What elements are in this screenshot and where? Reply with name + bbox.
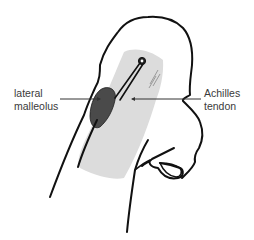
label-lateral-malleolus-line1: lateral xyxy=(14,87,58,100)
ankle-diagram xyxy=(0,0,254,240)
label-achilles-tendon: Achilles tendon xyxy=(204,87,240,112)
label-lateral-malleolus: lateral malleolus xyxy=(14,87,58,112)
label-achilles-tendon-line1: Achilles xyxy=(204,87,240,100)
label-achilles-tendon-line2: tendon xyxy=(204,100,240,113)
label-lateral-malleolus-line2: malleolus xyxy=(14,100,58,113)
